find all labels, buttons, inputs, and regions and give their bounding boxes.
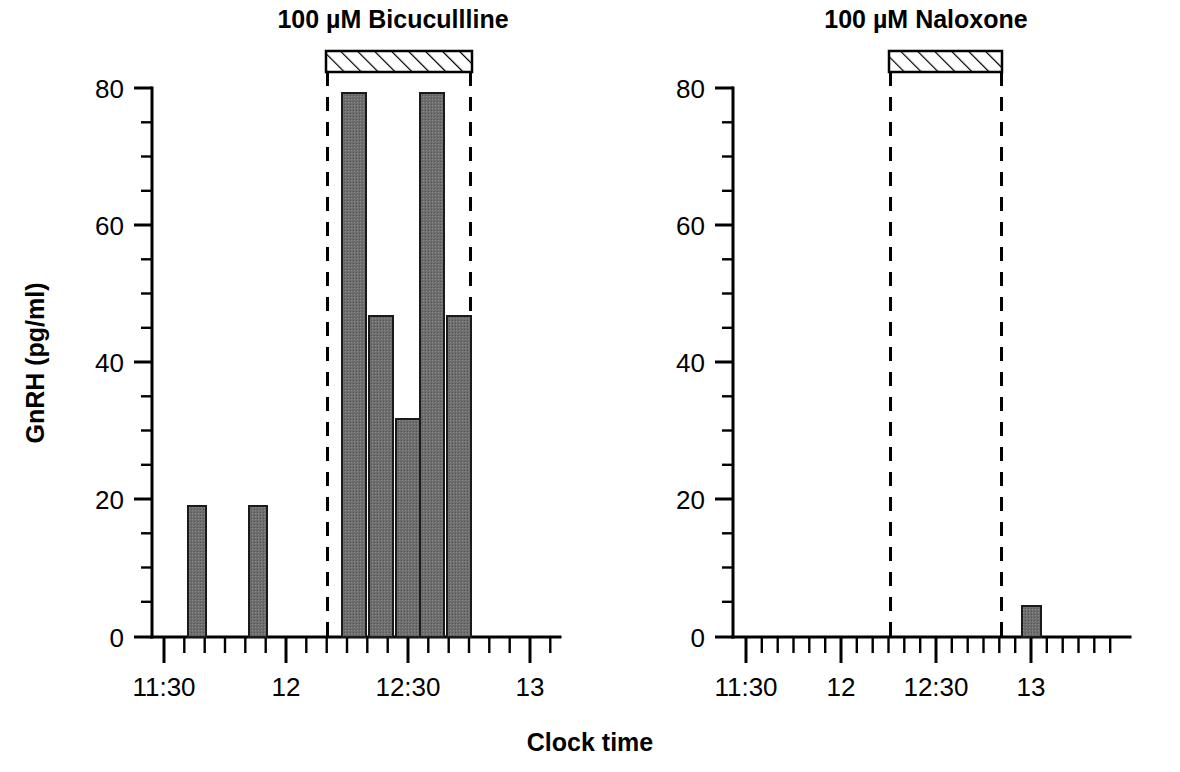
right-panel-treatment-title: 100 µM Naloxone [824,5,1027,33]
left-panel-treatment-title: 100 µM Bicucullline [277,5,508,33]
gnrh-secretion-bar-chart: 100 µM Bicucullline [0,0,1180,772]
left-y-tick-label-40: 40 [95,348,124,378]
right-panel-bars [1022,606,1041,637]
bar-left-7 [447,316,471,637]
right-y-tick-label-60: 60 [676,211,705,241]
right-y-tick-label-80: 80 [676,74,705,104]
x-axis-title: Clock time [527,728,654,756]
left-treatment-hatch-rect [326,51,472,72]
left-y-tick-label-60: 60 [95,211,124,241]
right-treatment-hatch-rect [889,51,1002,72]
right-x-tick-label-1130: 11:30 [714,672,777,702]
left-y-tick-label-20: 20 [95,485,124,515]
right-y-tick-label-0: 0 [691,623,705,653]
left-x-tick-label-1130: 11:30 [132,672,195,702]
bar-right-1 [1022,606,1041,637]
bar-left-4 [369,316,393,637]
left-treatment-hatch-bar [326,51,472,72]
bar-left-6 [420,93,444,637]
left-y-tick-label-80: 80 [95,74,124,104]
right-x-tick-label-12: 12 [827,672,856,702]
bar-left-5 [396,419,420,637]
right-treatment-hatch-bar [889,51,1002,72]
left-x-tick-label-1230: 12:30 [375,672,440,702]
left-x-tick-label-12: 12 [272,672,301,702]
bar-left-2 [249,506,267,637]
left-x-tick-label-13: 13 [516,672,545,702]
left-y-tick-label-0: 0 [110,623,124,653]
figure-root: 100 µM Bicucullline [0,0,1180,772]
bar-left-3 [342,93,366,637]
bar-left-1 [188,506,206,637]
right-y-tick-label-40: 40 [676,348,705,378]
right-y-tick-label-20: 20 [676,485,705,515]
right-x-tick-label-13: 13 [1017,672,1046,702]
right-x-tick-label-1230: 12:30 [903,672,968,702]
y-axis-title: GnRH (pg/ml) [21,282,49,443]
